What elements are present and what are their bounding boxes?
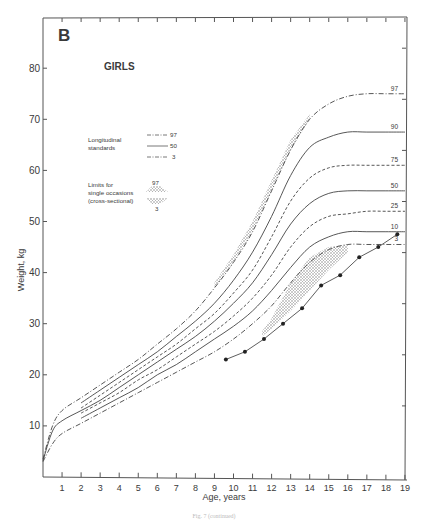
- x-tick-label: 17: [362, 483, 372, 493]
- x-tick-label: 2: [79, 483, 84, 493]
- y-tick-label: 10: [29, 420, 41, 431]
- legend-label-97: 97: [170, 131, 177, 138]
- percentile-label-90: 90: [391, 123, 399, 130]
- top-axis: [43, 17, 407, 18]
- right-axis: [405, 17, 407, 480]
- data-point: [357, 255, 361, 259]
- y-tick-label: 30: [29, 318, 41, 329]
- x-tick-label: 16: [343, 483, 353, 493]
- data-point: [224, 357, 228, 361]
- percentile-label-3: 3: [394, 235, 398, 242]
- y-tick-label: 80: [29, 63, 41, 74]
- legend-label-50: 50: [170, 142, 177, 149]
- percentile-label-25: 25: [391, 202, 399, 209]
- y-tick-label: 50: [29, 216, 41, 227]
- data-point: [281, 322, 285, 326]
- cross-sectional-3-band: [262, 244, 348, 336]
- data-point: [319, 283, 323, 287]
- percentile-label-97: 97: [391, 85, 399, 92]
- y-tick-label: 60: [29, 165, 41, 176]
- legend-label-3: 3: [172, 153, 176, 160]
- x-axis-label: Age, years: [202, 492, 246, 502]
- y-tick-label: 40: [29, 267, 41, 278]
- x-tick-label: 8: [193, 483, 198, 493]
- percentile-curve-90: [81, 132, 405, 403]
- x-tick-label: 4: [117, 483, 122, 493]
- x-axis: [43, 477, 407, 480]
- x-tick-label: 7: [174, 483, 179, 493]
- axis-ticks: [43, 18, 406, 480]
- y-tick-label: 70: [29, 114, 41, 125]
- data-point: [395, 232, 399, 236]
- data-point: [243, 350, 247, 354]
- legend-cs-swatch-97: [146, 186, 168, 192]
- figure-caption: Fig. 7 (continued): [192, 513, 235, 520]
- chart-subtitle: GIRLS: [104, 61, 135, 72]
- x-tick-label: 12: [267, 483, 277, 493]
- x-tick-label: 13: [286, 483, 296, 493]
- plot-frame: [43, 17, 407, 480]
- legend-cs-label-97: 97: [152, 179, 159, 186]
- growth-chart: 1234567891011121314151617181910203040506…: [0, 0, 428, 521]
- percentile-labels: 9790755025103: [391, 85, 399, 243]
- legend-cs-label-3: 3: [155, 205, 159, 212]
- x-tick-label: 15: [324, 483, 334, 493]
- percentile-label-50: 50: [391, 182, 399, 189]
- legend: Longitudinal standards 97 50 3 Limits fo…: [88, 131, 177, 212]
- percentile-curve-3: [43, 244, 405, 462]
- x-tick-label: 3: [98, 483, 103, 493]
- y-axis-label: Weight, kg: [16, 249, 26, 291]
- x-tick-label: 5: [136, 483, 141, 493]
- legend-longitudinal-label: Longitudinal standards: [88, 136, 123, 151]
- x-tick-label: 18: [381, 483, 391, 493]
- percentile-curve-10: [81, 231, 405, 418]
- legend-cs-swatch-3: [146, 198, 168, 204]
- legend-cross-sectional-label: Limits for single occasions (cross-secti…: [88, 181, 135, 204]
- x-tick-label: 11: [248, 483, 257, 493]
- panel-letter: B: [58, 26, 70, 45]
- data-point: [338, 273, 342, 277]
- x-tick-label: 1: [60, 483, 65, 493]
- y-tick-label: 20: [29, 369, 41, 380]
- x-tick-label: 19: [400, 483, 410, 493]
- x-tick-label: 14: [305, 483, 315, 493]
- data-point: [300, 306, 304, 310]
- percentile-label-10: 10: [391, 223, 399, 230]
- data-point: [262, 337, 266, 341]
- percentile-label-75: 75: [391, 156, 399, 163]
- x-tick-label: 6: [155, 483, 160, 493]
- data-point: [376, 245, 380, 249]
